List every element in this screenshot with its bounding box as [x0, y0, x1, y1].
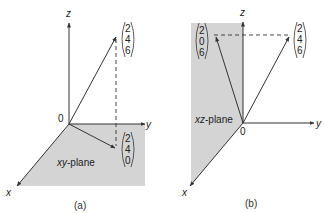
component: 4: [297, 34, 303, 45]
component: 2: [125, 23, 131, 34]
component: 2: [125, 133, 131, 144]
y-axis-label: y: [145, 119, 152, 130]
component: 0: [199, 36, 205, 47]
component: 6: [199, 47, 205, 58]
column-vector-246: 2 4 6: [122, 22, 134, 57]
caption-b: (b): [245, 198, 257, 209]
diagram-canvas: z y x 0 2 4 6 2 4 0 xy-plane (a): [0, 0, 324, 213]
caption-a: (a): [74, 200, 86, 211]
z-axis-label: z: [239, 7, 245, 18]
z-axis-label: z: [65, 8, 71, 19]
plane-label: xy-plane: [56, 157, 95, 168]
component: 2: [199, 25, 205, 36]
origin-label: 0: [58, 113, 64, 124]
x-axis-label: x: [181, 187, 188, 198]
component: 0: [125, 155, 131, 166]
component: 2: [297, 23, 303, 34]
origin-label: 0: [240, 126, 246, 137]
plane-label: xz-plane: [194, 114, 233, 125]
x-axis-label: x: [5, 187, 12, 198]
column-vector-246: 2 4 6: [294, 22, 306, 58]
component: 4: [125, 144, 131, 155]
y-axis-label: y: [315, 118, 322, 129]
component: 6: [297, 45, 303, 56]
vector-246: [69, 37, 116, 124]
panel-a: z y x 0 2 4 6 2 4 0 xy-plane (a): [5, 8, 152, 211]
component: 6: [125, 45, 131, 56]
component: 4: [125, 34, 131, 45]
vector-246: [243, 37, 289, 123]
panel-b: z y x 0 2 0 6 2 4 6 xz-plane (b): [181, 7, 322, 209]
